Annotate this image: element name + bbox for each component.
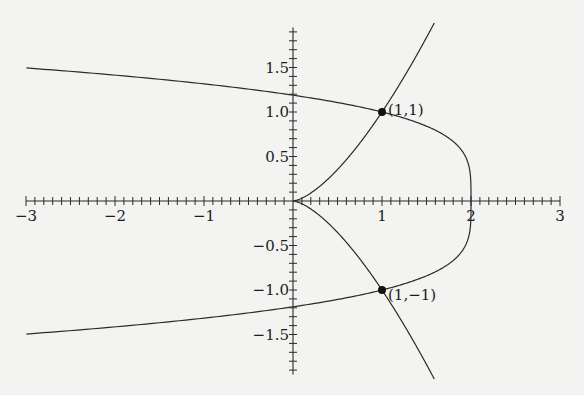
x-axis: −3−2−1123 [15,196,565,225]
y-tick-label: 1.5 [265,59,289,77]
intersection-points: (1,1)(1,−1) [378,101,436,304]
x-tick-label: 1 [377,207,387,225]
y-tick-label: −0.5 [253,237,289,255]
x-tick-label: 3 [555,207,565,225]
x-tick-label: −3 [15,207,37,225]
x-tick-label: −2 [104,207,126,225]
plot-canvas: −3−2−1123 1.51.00.5−0.5−1.0−1.5 (1,1)(1,… [0,0,584,395]
y-tick-label: −1.0 [253,281,289,299]
y-tick-label: 1.0 [265,103,289,121]
intersection-point [378,286,386,294]
point-label: (1,1) [388,101,424,119]
x-tick-label: −1 [193,207,215,225]
y-tick-label: −1.5 [253,326,289,344]
point-label: (1,−1) [388,286,436,304]
y-tick-label: 0.5 [265,148,289,166]
intersection-point [378,108,386,116]
